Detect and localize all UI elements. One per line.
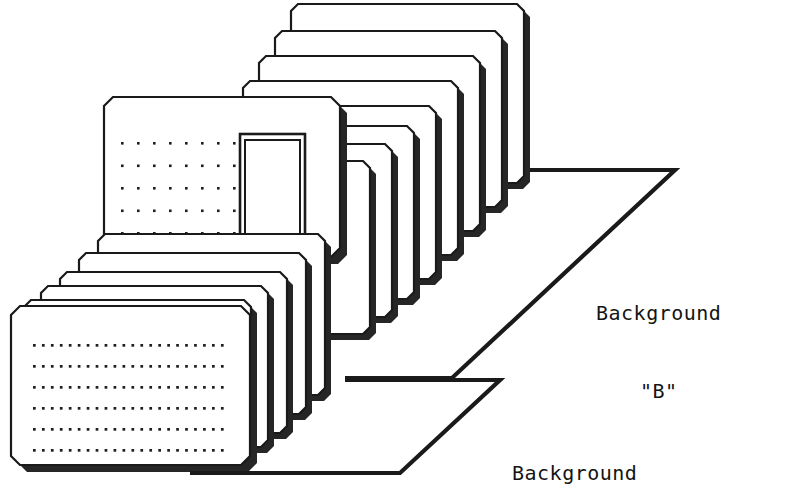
dot (153, 187, 156, 190)
dot (42, 344, 45, 347)
dot (194, 344, 197, 347)
dot (51, 344, 54, 347)
dot (137, 210, 140, 213)
dot (60, 449, 63, 452)
dot (60, 386, 63, 389)
dot (221, 365, 224, 368)
dot (203, 449, 206, 452)
dot (96, 344, 99, 347)
dot (42, 365, 45, 368)
dot (201, 210, 204, 213)
dot (60, 428, 63, 431)
dot (169, 165, 172, 168)
dot (217, 187, 220, 190)
dot (185, 449, 188, 452)
dot (158, 407, 161, 410)
dot (221, 449, 224, 452)
dot (212, 449, 215, 452)
dot (114, 449, 117, 452)
dot (51, 407, 54, 410)
dot (194, 407, 197, 410)
dot (51, 428, 54, 431)
dot (233, 210, 236, 213)
dot (185, 386, 188, 389)
dot (158, 449, 161, 452)
dot (194, 428, 197, 431)
dot (167, 428, 170, 431)
dot (78, 407, 81, 410)
dot (185, 407, 188, 410)
dot (87, 365, 90, 368)
dot (158, 365, 161, 368)
dot (78, 344, 81, 347)
dot (137, 165, 140, 168)
dot (149, 386, 152, 389)
dot (105, 365, 108, 368)
dot (33, 365, 36, 368)
dot (69, 428, 72, 431)
dot (131, 386, 134, 389)
dot (78, 428, 81, 431)
dot (212, 365, 215, 368)
dot (114, 428, 117, 431)
diagram-root: Background "B" Background "A" (0, 0, 794, 487)
dot (42, 407, 45, 410)
dot (185, 187, 188, 190)
dot (114, 365, 117, 368)
dot (212, 386, 215, 389)
dot (131, 428, 134, 431)
dot (42, 428, 45, 431)
dot (60, 407, 63, 410)
dot (194, 365, 197, 368)
dot (185, 365, 188, 368)
dot (105, 449, 108, 452)
dot (149, 344, 152, 347)
dot (221, 428, 224, 431)
dot (87, 407, 90, 410)
dot (217, 142, 220, 145)
dot (87, 449, 90, 452)
dot (233, 187, 236, 190)
dot (176, 449, 179, 452)
dot (176, 365, 179, 368)
dot (149, 407, 152, 410)
dot (42, 449, 45, 452)
dot (176, 428, 179, 431)
dot (121, 142, 124, 145)
dot (203, 407, 206, 410)
dot (96, 428, 99, 431)
dot (176, 407, 179, 410)
dot (149, 428, 152, 431)
dot (123, 449, 126, 452)
dot (123, 344, 126, 347)
dot (69, 386, 72, 389)
dot (221, 386, 224, 389)
dot (167, 365, 170, 368)
dot (169, 210, 172, 213)
dot (140, 407, 143, 410)
dot (123, 428, 126, 431)
dot (233, 142, 236, 145)
dot (140, 386, 143, 389)
dot (96, 449, 99, 452)
dot (123, 407, 126, 410)
dot (87, 428, 90, 431)
dot (203, 386, 206, 389)
dot (167, 344, 170, 347)
dot (105, 428, 108, 431)
dot (203, 344, 206, 347)
dot (185, 165, 188, 168)
dot (33, 449, 36, 452)
dot (149, 449, 152, 452)
dot (69, 365, 72, 368)
dot (167, 386, 170, 389)
dot (69, 407, 72, 410)
dot (201, 165, 204, 168)
dot (149, 365, 152, 368)
dot (114, 344, 117, 347)
dot (212, 344, 215, 347)
dot (123, 386, 126, 389)
dot (96, 407, 99, 410)
dot (137, 187, 140, 190)
dot (153, 210, 156, 213)
